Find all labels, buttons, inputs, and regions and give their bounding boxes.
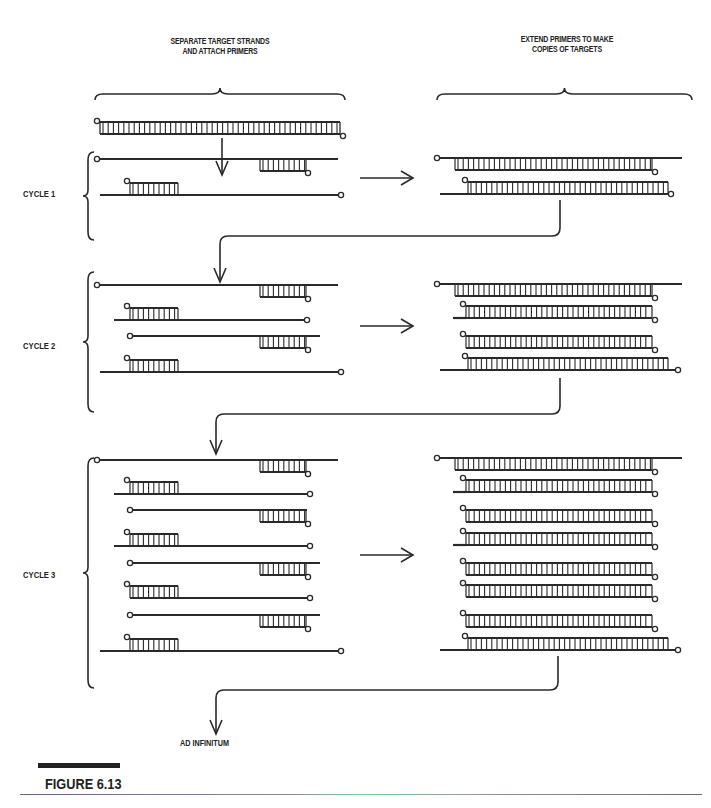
end-marker-icon xyxy=(460,475,465,480)
end-marker-icon xyxy=(462,177,467,182)
end-marker-icon xyxy=(434,281,439,286)
end-marker-icon xyxy=(460,558,465,563)
end-marker-icon xyxy=(652,544,657,549)
end-marker-icon xyxy=(305,574,310,579)
end-marker-icon xyxy=(460,301,465,306)
end-marker-icon xyxy=(340,133,345,138)
end-marker-icon xyxy=(94,118,99,123)
column-brace xyxy=(95,88,345,100)
end-marker-icon xyxy=(460,331,465,336)
cycle-brace xyxy=(83,272,94,412)
figure-bar xyxy=(38,763,120,768)
end-marker-icon xyxy=(305,296,310,301)
end-marker-icon xyxy=(127,612,132,617)
cycle-brace xyxy=(83,152,94,240)
end-marker-icon xyxy=(305,626,310,631)
end-marker-icon xyxy=(307,543,312,548)
end-marker-icon xyxy=(460,528,465,533)
end-marker-icon xyxy=(652,317,657,322)
end-marker-icon xyxy=(94,457,99,462)
end-marker-icon xyxy=(124,529,129,534)
end-marker-icon xyxy=(460,505,465,510)
end-marker-icon xyxy=(434,155,439,160)
connector-cycle2 xyxy=(216,378,560,454)
end-marker-icon xyxy=(94,156,99,161)
end-marker-icon xyxy=(675,367,680,372)
end-marker-icon xyxy=(305,471,310,476)
end-marker-icon xyxy=(652,491,657,496)
end-marker-icon xyxy=(338,192,343,197)
header-left: SEPARATE TARGET STRANDS AND ATTACH PRIME… xyxy=(146,36,294,56)
end-marker-icon xyxy=(124,303,129,308)
end-marker-icon xyxy=(668,191,673,196)
end-marker-icon xyxy=(652,574,657,579)
end-marker-icon xyxy=(652,596,657,601)
cycle-2-label: CYCLE 2 xyxy=(23,341,55,351)
ad-infinitum-label: AD INFINITUM xyxy=(180,738,229,748)
end-marker-icon xyxy=(94,282,99,287)
end-marker-icon xyxy=(305,170,310,175)
end-marker-icon xyxy=(307,491,312,496)
end-marker-icon xyxy=(652,347,657,352)
end-marker-icon xyxy=(675,647,680,652)
end-marker-icon xyxy=(652,295,657,300)
connector-cycle1 xyxy=(220,200,560,282)
cycle-brace xyxy=(83,458,94,688)
end-marker-icon xyxy=(460,580,465,585)
header-right-line1: EXTEND PRIMERS TO MAKE xyxy=(493,34,641,44)
end-marker-icon xyxy=(462,353,467,358)
end-marker-icon xyxy=(434,455,439,460)
end-marker-icon xyxy=(305,347,310,352)
end-marker-icon xyxy=(338,648,343,653)
end-marker-icon xyxy=(652,626,657,631)
end-marker-icon xyxy=(462,633,467,638)
end-marker-icon xyxy=(307,595,312,600)
end-marker-icon xyxy=(124,355,129,360)
figure-label: FIGURE 6.13 xyxy=(45,775,122,792)
header-right-line2: COPIES OF TARGETS xyxy=(493,44,641,54)
figure-6-13: SEPARATE TARGET STRANDS AND ATTACH PRIME… xyxy=(0,0,711,808)
end-marker-icon xyxy=(652,469,657,474)
end-marker-icon xyxy=(305,521,310,526)
header-left-line1: SEPARATE TARGET STRANDS xyxy=(146,36,294,46)
header-left-line2: AND ATTACH PRIMERS xyxy=(146,46,294,56)
end-marker-icon xyxy=(124,178,129,183)
end-marker-icon xyxy=(460,610,465,615)
header-right: EXTEND PRIMERS TO MAKE COPIES OF TARGETS xyxy=(493,34,641,54)
end-marker-icon xyxy=(127,333,132,338)
end-marker-icon xyxy=(127,560,132,565)
column-brace xyxy=(437,88,692,100)
end-marker-icon xyxy=(124,634,129,639)
end-marker-icon xyxy=(127,507,132,512)
end-marker-icon xyxy=(124,477,129,482)
end-marker-icon xyxy=(652,521,657,526)
end-marker-icon xyxy=(338,369,343,374)
cycle-3-label: CYCLE 3 xyxy=(23,570,55,580)
cycle-1-label: CYCLE 1 xyxy=(23,189,55,199)
connector-cycle3 xyxy=(216,656,558,734)
end-marker-icon xyxy=(652,169,657,174)
end-marker-icon xyxy=(124,581,129,586)
pcr-diagram xyxy=(0,0,711,808)
bottom-rule xyxy=(20,794,702,795)
end-marker-icon xyxy=(304,317,309,322)
